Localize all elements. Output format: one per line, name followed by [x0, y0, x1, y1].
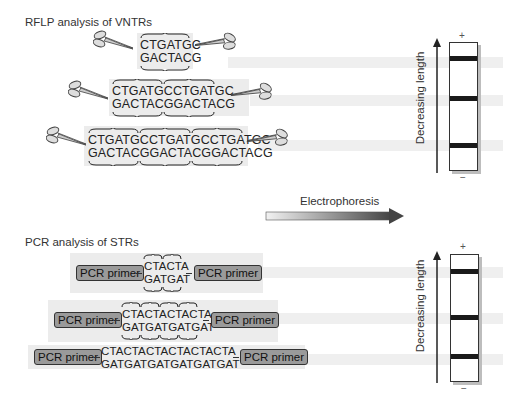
linker	[233, 357, 239, 358]
pcr-seq-top-1: CTACTA	[144, 260, 189, 273]
pcr-seq-bottom-3: GATGATGATGATGATGAT	[101, 358, 240, 371]
pcr-primer-right-1: PCR primer	[194, 265, 262, 281]
pcr-primer-right-3: PCR primer	[240, 349, 308, 365]
rflp-axis-label: Decreasing length	[414, 48, 426, 148]
scissors-icon	[46, 126, 88, 148]
rflp-seq-bottom-1: GACTACG	[140, 52, 202, 65]
pcr-primer-left-3: PCR primer	[34, 349, 102, 365]
pcr-gel-band-3	[451, 354, 478, 359]
rflp-seq-bottom-2: GACTACGGACTACG	[112, 98, 235, 111]
repeat-brace-icon	[143, 286, 183, 292]
linker	[114, 320, 120, 321]
pcr-gel-minus: −	[461, 383, 467, 394]
pcr-seq-top-2: CTACTACTACTA	[122, 308, 212, 321]
repeat-brace-icon	[112, 111, 216, 117]
pcr-axis-label: Decreasing length	[414, 256, 426, 356]
rflp-gel	[449, 42, 478, 171]
electrophoresis-label: Electrophoresis	[300, 195, 379, 207]
pcr-seq-bottom-2: GATGATGATGAT	[122, 321, 214, 334]
pcr-primer-right-2: PCR primer	[211, 312, 279, 328]
arrow-up-icon	[432, 251, 442, 384]
repeat-brace-icon	[112, 79, 216, 85]
repeat-brace-icon	[121, 334, 201, 340]
repeat-brace-icon	[88, 128, 246, 134]
scissors-icon	[68, 80, 110, 102]
pcr-primer-left-2: PCR primer	[54, 312, 122, 328]
rflp-gel-minus: −	[460, 172, 466, 183]
pcr-seq-top-3: CTACTACTACTACTACTA	[101, 345, 236, 358]
arrow-right-icon	[265, 208, 405, 224]
rflp-gel-band-1	[450, 56, 477, 61]
rflp-gel-plus: +	[459, 30, 465, 41]
linker	[94, 357, 100, 358]
pcr-primer-left-1: PCR primer	[76, 265, 144, 281]
pcr-gel-band-2	[451, 315, 478, 320]
pcr-title: PCR analysis of STRs	[25, 236, 139, 248]
repeat-brace-icon	[140, 65, 190, 71]
scissors-icon	[93, 30, 135, 52]
rflp-gel-band-3	[450, 143, 477, 148]
linker	[186, 273, 192, 274]
linker	[136, 273, 142, 274]
rflp-title: RFLP analysis of VNTRs	[25, 16, 152, 28]
repeat-brace-icon	[88, 160, 246, 166]
pcr-seq-bottom-1: GATGAT	[144, 273, 190, 286]
arrow-up-icon	[432, 38, 442, 174]
pcr-gel	[450, 254, 479, 382]
pcr-gel-band-1	[451, 269, 478, 274]
linker	[203, 320, 209, 321]
pcr-gel-plus: +	[460, 241, 466, 252]
rflp-gel-band-2	[450, 96, 477, 101]
rflp-seq-bottom-3: GACTACGGACTACGGACTACG	[88, 147, 273, 160]
